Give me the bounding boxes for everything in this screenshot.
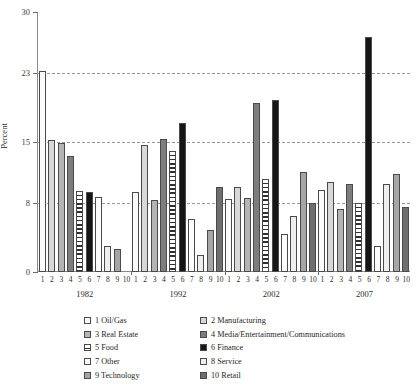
bar-1992-2[interactable] xyxy=(141,145,148,272)
bar-2002-9[interactable] xyxy=(300,172,307,272)
bar-1982-8[interactable] xyxy=(104,246,111,272)
bar-2002-1[interactable] xyxy=(225,199,232,272)
x-tick-label-1982-2: 2 xyxy=(47,273,56,284)
legend-item-1-oil-gas[interactable]: 1 Oil/Gas xyxy=(84,316,200,325)
legend-item-4-media-entertainment-communications[interactable]: 4 Media/Entertainment/Communications xyxy=(200,330,374,339)
bar-2007-7[interactable] xyxy=(374,246,381,272)
bar-2002-3[interactable] xyxy=(244,198,251,272)
bar-2002-2[interactable] xyxy=(234,187,241,272)
bar-1982-3[interactable] xyxy=(58,143,65,272)
x-tick-label-1992-8: 8 xyxy=(197,273,206,284)
bar-2007-3[interactable] xyxy=(337,209,344,272)
legend-item-7-other[interactable]: 7 Other xyxy=(84,357,200,366)
group-separator-tick xyxy=(131,271,132,275)
bar-2002-7[interactable] xyxy=(281,234,288,272)
bar-2007-6[interactable] xyxy=(365,37,372,272)
legend-item-3-real-estate[interactable]: 3 Real Estate xyxy=(84,330,200,339)
bar-1992-3[interactable] xyxy=(151,200,158,272)
y-tick-label-0: 0 xyxy=(26,267,30,277)
bar-2002-8[interactable] xyxy=(290,216,297,272)
bar-slot xyxy=(317,12,326,272)
bar-2007-5[interactable] xyxy=(355,203,362,272)
legend-item-6-finance[interactable]: 6 Finance xyxy=(200,343,374,352)
x-tick-label-1992-2: 2 xyxy=(141,273,150,284)
bar-1982-7[interactable] xyxy=(95,197,102,272)
legend-swatch-icon xyxy=(84,331,91,338)
legend-label: 8 Service xyxy=(211,357,242,366)
bar-slot xyxy=(150,12,159,272)
bar-slot xyxy=(354,12,363,272)
legend-label: 7 Other xyxy=(95,357,120,366)
bar-2002-4[interactable] xyxy=(253,103,260,272)
legend-item-5-food[interactable]: 5 Food xyxy=(84,343,200,352)
x-tick-label-1982-10: 10 xyxy=(122,273,131,284)
x-tick-label-2002-10: 10 xyxy=(308,273,317,284)
bar-slot xyxy=(336,12,345,272)
y-tick-label-8: 8 xyxy=(26,198,30,208)
x-tick-label-2002-9: 9 xyxy=(299,273,308,284)
x-tick-label-2002-2: 2 xyxy=(234,273,243,284)
legend-item-2-manufacturing[interactable]: 2 Manufacturing xyxy=(200,316,374,325)
bar-slot xyxy=(289,12,298,272)
bar-2007-10[interactable] xyxy=(402,207,409,272)
bar-2007-9[interactable] xyxy=(393,174,400,272)
legend-swatch-icon xyxy=(84,372,91,379)
x-tick-label-2007-8: 8 xyxy=(383,273,392,284)
x-tick-label-1982-4: 4 xyxy=(66,273,75,284)
x-axis-item-labels: 1234567891012345678910123456789101234567… xyxy=(38,273,411,284)
bar-slot xyxy=(243,12,252,272)
bar-1992-10[interactable] xyxy=(216,187,223,272)
legend-item-8-service[interactable]: 8 Service xyxy=(200,357,374,366)
bar-1992-6[interactable] xyxy=(179,123,186,272)
y-tick-label-23: 23 xyxy=(22,68,31,78)
bar-1992-5[interactable] xyxy=(169,151,176,272)
bar-1982-2[interactable] xyxy=(48,140,55,272)
bar-1992-7[interactable] xyxy=(188,219,195,272)
x-group-ticks-1982: 12345678910 xyxy=(38,273,131,284)
x-group-label-2002: 2002 xyxy=(225,289,318,299)
bar-1992-9[interactable] xyxy=(207,230,214,272)
bar-2007-1[interactable] xyxy=(318,190,325,272)
x-tick-label-1982-5: 5 xyxy=(75,273,84,284)
bar-2002-10[interactable] xyxy=(309,203,316,272)
bar-1982-5[interactable] xyxy=(76,191,83,272)
x-tick-label-1992-6: 6 xyxy=(178,273,187,284)
bar-slot xyxy=(122,12,131,272)
bar-slot xyxy=(252,12,261,272)
x-tick-label-2002-4: 4 xyxy=(252,273,261,284)
x-tick-label-2007-1: 1 xyxy=(318,273,327,284)
bar-slot xyxy=(382,12,391,272)
bar-1992-4[interactable] xyxy=(160,139,167,272)
y-tick-label-30: 30 xyxy=(22,7,31,17)
x-tick-label-1982-9: 9 xyxy=(113,273,122,284)
bar-1992-1[interactable] xyxy=(132,192,139,272)
bar-2002-6[interactable] xyxy=(272,100,279,272)
x-tick-label-1992-4: 4 xyxy=(159,273,168,284)
bar-2002-5[interactable] xyxy=(262,179,269,272)
bar-1982-9[interactable] xyxy=(114,249,121,272)
bar-slot xyxy=(298,12,307,272)
x-tick-label-2007-7: 7 xyxy=(374,273,383,284)
bar-slot xyxy=(326,12,335,272)
x-group-label-2007: 2007 xyxy=(318,289,411,299)
bar-1982-4[interactable] xyxy=(67,156,74,272)
bar-slot xyxy=(401,12,410,272)
x-tick-label-1992-3: 3 xyxy=(150,273,159,284)
bar-2007-2[interactable] xyxy=(327,182,334,272)
x-tick-label-2007-10: 10 xyxy=(402,273,411,284)
bar-slot xyxy=(38,12,47,272)
bar-2007-4[interactable] xyxy=(346,184,353,272)
legend-item-10-retail[interactable]: 10 Retail xyxy=(200,371,374,380)
legend-swatch-icon xyxy=(84,317,91,324)
x-tick-label-1982-6: 6 xyxy=(85,273,94,284)
bar-slot xyxy=(224,12,233,272)
bar-2007-8[interactable] xyxy=(383,184,390,272)
bar-1982-6[interactable] xyxy=(86,192,93,272)
x-group-label-1982: 1982 xyxy=(38,289,131,299)
bar-1992-8[interactable] xyxy=(197,255,204,272)
bar-slot xyxy=(205,12,214,272)
bar-group-1982 xyxy=(38,12,131,272)
bar-slot xyxy=(140,12,149,272)
bar-1982-1[interactable] xyxy=(39,71,46,272)
legend-item-9-technology[interactable]: 9 Technology xyxy=(84,371,200,380)
